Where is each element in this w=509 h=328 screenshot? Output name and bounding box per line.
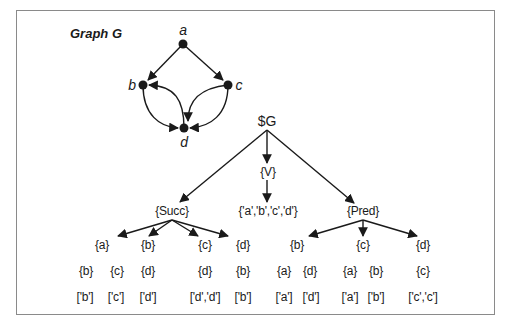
graph-node-label-d: d [180, 134, 188, 150]
tree-v-value: {'a','b','c','d'} [239, 204, 298, 218]
succ-key-d: {d} [236, 238, 250, 252]
graph-node-label-c: c [236, 77, 243, 93]
edge-root-succ [180, 130, 267, 202]
graph-node-d [180, 124, 189, 133]
graph-title: Graph G [70, 26, 122, 41]
pred-b-list-0: ['a'] [276, 290, 293, 304]
succ-d-list-0: ['b'] [235, 290, 252, 304]
pred-c-set-1: {b} [369, 264, 383, 278]
tree-succ-node: {Succ} [155, 204, 189, 218]
pred-d-list-0: ['c','c'] [408, 290, 437, 304]
pred-b-set-0: {a} [277, 264, 291, 278]
succ-b-list-0: ['d'] [140, 290, 157, 304]
pred-key-b: {b} [290, 238, 304, 252]
succ-c-list-0: ['d','d'] [190, 290, 221, 304]
pred-b-set-1: {d} [303, 264, 317, 278]
tree-pred-node: {Pred} [347, 204, 379, 218]
edge-a-c [183, 44, 223, 80]
succ-a-set-0: {b} [79, 264, 93, 278]
pred-d-set-0: {c} [416, 264, 429, 278]
edge-pred-b [309, 220, 363, 236]
edge-c-d-inner [188, 85, 228, 121]
pred-key-d: {d} [416, 238, 430, 252]
succ-a-list-1: ['c'] [108, 290, 124, 304]
edge-pred-d [363, 220, 417, 236]
succ-a-list-0: ['b'] [77, 290, 94, 304]
succ-key-c: {c} [198, 238, 211, 252]
graph-node-a [179, 40, 188, 49]
graph-node-b [139, 81, 148, 90]
edge-d-b [149, 85, 184, 128]
pred-c-list-0: ['a'] [342, 290, 359, 304]
succ-a-set-1: {c} [110, 264, 123, 278]
edge-a-b [148, 44, 183, 80]
tree-v-node: {V} [260, 165, 275, 179]
succ-b-set-0: {d} [141, 264, 155, 278]
graph-node-label-b: b [128, 77, 136, 93]
edge-succ-c [172, 220, 198, 236]
diagram-canvas [0, 0, 509, 328]
edge-b-d [143, 85, 178, 128]
pred-c-list-1: ['b'] [368, 290, 385, 304]
pred-b-list-1: ['d'] [303, 290, 320, 304]
edge-c-d-outer [190, 85, 228, 128]
succ-c-set-0: {d} [198, 264, 212, 278]
tree-edges [118, 130, 417, 236]
edge-succ-b [149, 220, 172, 236]
edge-succ-a [118, 220, 172, 236]
graph-node-label-a: a [179, 22, 187, 38]
graph-edges [143, 44, 228, 128]
succ-key-a: {a} [95, 238, 109, 252]
succ-key-b: {b} [141, 238, 155, 252]
pred-c-set-0: {a} [343, 264, 357, 278]
edge-succ-d [172, 220, 228, 236]
tree-root: $G [258, 113, 276, 129]
edge-root-pred [267, 130, 354, 203]
pred-key-c: {c} [356, 238, 369, 252]
graph-node-c [224, 81, 233, 90]
succ-d-set-0: {b} [236, 264, 250, 278]
